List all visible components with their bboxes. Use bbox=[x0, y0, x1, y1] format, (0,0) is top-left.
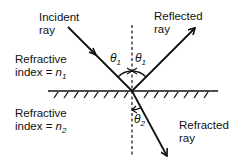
incident-label-line2: ray bbox=[39, 24, 79, 37]
medium1-index: index = n1 bbox=[15, 66, 67, 83]
reflected-ray-label: Reflected ray bbox=[154, 10, 203, 36]
angle-label-refraction: θ2 bbox=[134, 112, 145, 128]
refracted-ray-label: Refracted ray bbox=[179, 119, 229, 145]
incidence-subscript: 1 bbox=[117, 58, 121, 67]
medium2-subscript: 2 bbox=[62, 126, 66, 135]
medium1-label-line1: Refractive bbox=[15, 53, 67, 66]
refraction-subscript: 2 bbox=[141, 119, 145, 128]
angle-label-incidence: θ1 bbox=[110, 51, 121, 67]
reflection-subscript: 1 bbox=[142, 58, 146, 67]
incident-label-line1: Incident bbox=[39, 11, 79, 24]
medium1-subscript: 1 bbox=[62, 72, 66, 81]
medium2-index-prefix: index = bbox=[15, 120, 56, 132]
incident-ray-label: Incident ray bbox=[39, 11, 79, 37]
reflected-label-line2: ray bbox=[154, 23, 203, 36]
angle-label-reflection: θ1 bbox=[135, 51, 146, 67]
refracted-label-line2: ray bbox=[179, 132, 229, 145]
medium1-index-prefix: index = bbox=[15, 66, 56, 78]
medium2-index: index = n2 bbox=[15, 120, 67, 137]
medium2-label: Refractive index = n2 bbox=[15, 107, 67, 137]
surface-hatching bbox=[54, 92, 208, 98]
medium2-label-line1: Refractive bbox=[15, 107, 67, 120]
medium1-label: Refractive index = n1 bbox=[15, 53, 67, 83]
reflected-label-line1: Reflected bbox=[154, 10, 203, 23]
refracted-label-line1: Refracted bbox=[179, 119, 229, 132]
